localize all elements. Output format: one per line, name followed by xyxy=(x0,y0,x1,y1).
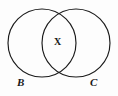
intersection-label-x: X xyxy=(54,37,61,47)
venn-diagram-figure: X B C xyxy=(0,0,118,96)
set-label-c: C xyxy=(90,77,97,88)
set-label-b: B xyxy=(17,77,24,88)
